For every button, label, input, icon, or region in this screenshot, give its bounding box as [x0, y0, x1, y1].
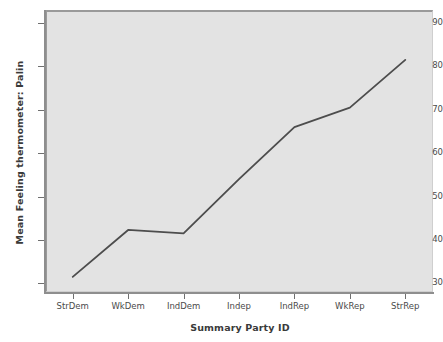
- series-polyline: [73, 60, 406, 277]
- line-chart: Mean Feeling thermometer: Palin 30405060…: [0, 0, 443, 342]
- x-axis-title: Summary Party ID: [40, 322, 440, 333]
- data-series-line: [0, 0, 443, 342]
